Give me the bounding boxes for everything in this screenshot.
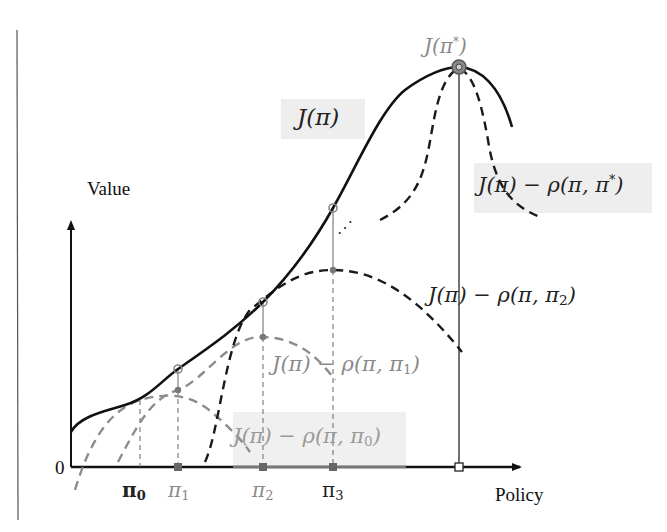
x-axis-label: Policy (495, 484, 544, 506)
tick-label-pi0: π0 (122, 478, 146, 503)
optimum-label: J(π*) (424, 34, 467, 58)
objective-points (174, 204, 337, 373)
y-axis-label: Value (87, 178, 130, 200)
tick-label-pi2: π2 (252, 478, 273, 503)
surrogate-2-label: J(π) − ρ(π, π2) (428, 283, 576, 308)
diagram-canvas (0, 0, 667, 532)
optimum-marker-inner (456, 64, 462, 70)
surrogate-0-label: J(π) − ρ(π, π0) (233, 424, 381, 449)
surrogate-curve-pi0 (75, 396, 250, 490)
optimum-axis-marker (455, 463, 463, 471)
tick-label-pi3: π3 (322, 478, 343, 503)
ellipsis-dots: ⋰ (337, 218, 353, 237)
page-border-line (17, 30, 18, 520)
surrogate-star-label: J(π) − ρ(π, π*) (478, 172, 624, 197)
origin-label: 0 (55, 457, 65, 479)
surrogate-1-label: J(π) − ρ(π, π1) (272, 352, 420, 377)
objective-label: J(π) (297, 104, 339, 130)
tick-label-pi1: π1 (168, 478, 189, 503)
